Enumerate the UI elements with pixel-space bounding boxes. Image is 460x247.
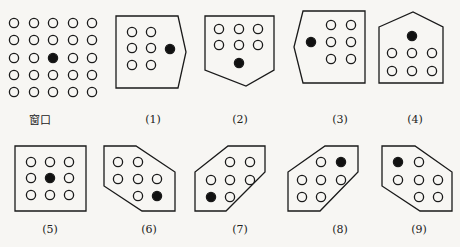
template-7-pixel-dot: [225, 157, 234, 166]
template-5-pixel-dot: [64, 157, 73, 166]
template-4-pixel-dot: [387, 48, 396, 57]
template-6-pixel-dot: [113, 174, 122, 183]
template-9-pixel-dot: [433, 192, 442, 201]
template-label-5: (5): [42, 223, 58, 236]
window-pixel-dot: [29, 70, 38, 79]
window-pixel-dot: [48, 35, 57, 44]
template-8-pixel-dot: [297, 192, 306, 201]
template-6-pixel-dot: [152, 174, 161, 183]
template-label-8: (8): [332, 223, 348, 236]
window-center-pixel-dot: [48, 53, 57, 62]
window-pixel-dot: [9, 53, 18, 62]
template-label-2: (2): [232, 113, 248, 126]
window-pixel-dot: [48, 18, 57, 27]
template-3-pixel-dot: [326, 54, 335, 63]
template-5-pixel-dot: [45, 157, 54, 166]
window-pixel-dot: [87, 35, 96, 44]
window-pixel-dot: [29, 18, 38, 27]
window-pixel-dot: [68, 70, 77, 79]
template-8-pixel-dot: [316, 157, 325, 166]
window-pixel-dot: [68, 35, 77, 44]
template-7-center-dot: [206, 192, 215, 201]
template-9-pixel-dot: [414, 192, 423, 201]
template-9-pixel-dot: [393, 175, 402, 184]
template-1-pixel-dot: [146, 60, 155, 69]
window-pixel-dot: [29, 35, 38, 44]
template-2-center-dot: [234, 58, 243, 67]
template-1-pixel-dot: [146, 27, 155, 36]
template-4-pixel-dot: [407, 48, 416, 57]
window-pixel-dot: [9, 70, 18, 79]
window-label: 窗口: [29, 111, 51, 127]
template-6-center-dot: [152, 191, 161, 200]
template-5-pixel-dot: [64, 173, 73, 182]
template-label-4: (4): [407, 113, 423, 126]
template-7-pixel-dot: [225, 175, 234, 184]
template-4-center-dot: [407, 31, 416, 40]
window-pixel-dot: [29, 53, 38, 62]
template-5-pixel-dot: [45, 190, 54, 199]
template-6-pixel-dot: [133, 174, 142, 183]
template-label-1: (1): [145, 113, 161, 126]
template-3-pixel-dot: [346, 37, 355, 46]
window-pixel-dot: [87, 70, 96, 79]
template-4-pixel-dot: [427, 66, 436, 75]
template-9-center-dot: [393, 157, 402, 166]
template-6-pixel-dot: [113, 157, 122, 166]
template-8-pixel-dot: [336, 175, 345, 184]
template-8-pixel-dot: [316, 175, 325, 184]
window-pixel-dot: [68, 18, 77, 27]
window-pixel-dot: [48, 87, 57, 96]
template-9-pixel-dot: [414, 175, 423, 184]
template-8-center-dot: [336, 157, 345, 166]
template-4-pixel-dot: [387, 66, 396, 75]
window-pixel-dot: [29, 87, 38, 96]
template-8-pixel-dot: [316, 192, 325, 201]
window-pixel-dot: [87, 87, 96, 96]
template-4-pixel-dot: [427, 48, 436, 57]
template-label-3: (3): [332, 113, 348, 126]
template-1-pixel-dot: [146, 43, 155, 52]
template-6-pixel-dot: [133, 191, 142, 200]
template-3-pixel-dot: [326, 20, 335, 29]
template-label-6: (6): [141, 223, 157, 236]
window-pixel-dot: [48, 70, 57, 79]
template-label-9: (9): [411, 223, 427, 236]
template-1-pixel-dot: [127, 60, 136, 69]
window-pixel-dot: [87, 18, 96, 27]
template-3-pixel-dot: [346, 20, 355, 29]
template-9-pixel-dot: [433, 175, 442, 184]
template-1-pixel-dot: [127, 27, 136, 36]
template-2-pixel-dot: [214, 40, 223, 49]
template-7-pixel-dot: [245, 157, 254, 166]
window-pixel-dot: [9, 87, 18, 96]
template-7-pixel-dot: [206, 175, 215, 184]
template-label-7: (7): [232, 223, 248, 236]
window-pixel-dot: [9, 35, 18, 44]
template-2-pixel-dot: [214, 24, 223, 33]
template-2-pixel-dot: [234, 24, 243, 33]
diagram-canvas: 窗口 (1) (2) (3) (4) (5) (6) (7) (8) (9): [0, 0, 460, 247]
diagram-drawing: [0, 0, 460, 247]
template-3-pixel-dot: [326, 37, 335, 46]
window-pixel-dot: [68, 53, 77, 62]
template-2-pixel-dot: [234, 40, 243, 49]
template-7-pixel-dot: [225, 192, 234, 201]
window-pixel-dot: [68, 87, 77, 96]
template-5-pixel-dot: [26, 190, 35, 199]
template-4-pixel-dot: [407, 66, 416, 75]
template-5-pixel-dot: [26, 157, 35, 166]
template-5-pixel-dot: [64, 190, 73, 199]
template-2-pixel-dot: [253, 24, 262, 33]
template-6-pixel-dot: [133, 157, 142, 166]
template-5-center-dot: [45, 173, 54, 182]
window-pixel-dot: [87, 53, 96, 62]
window-pixel-dot: [9, 18, 18, 27]
template-8-pixel-dot: [297, 175, 306, 184]
template-1-center-dot: [165, 44, 174, 53]
template-2-pixel-dot: [253, 40, 262, 49]
template-3-pixel-dot: [346, 54, 355, 63]
template-9-pixel-dot: [414, 157, 423, 166]
template-1-pixel-dot: [127, 43, 136, 52]
template-5-pixel-dot: [26, 173, 35, 182]
